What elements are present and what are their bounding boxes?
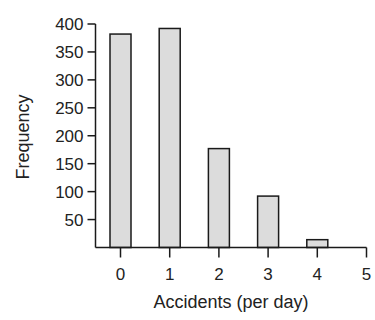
y-tick-label: 250: [55, 99, 83, 118]
x-tick-label: 0: [116, 265, 125, 284]
x-tick-label: 5: [362, 265, 371, 284]
y-tick-label: 350: [55, 43, 83, 62]
x-tick-label: 2: [214, 265, 223, 284]
bar-1: [159, 28, 180, 247]
y-tick-label: 300: [55, 71, 83, 90]
y-tick-label: 150: [55, 155, 83, 174]
y-axis-title: Frequency: [13, 94, 33, 179]
y-axis: 50100150200250300350400: [55, 15, 95, 248]
bar-3: [258, 196, 279, 247]
x-tick-label: 4: [313, 265, 322, 284]
histogram-chart: 50100150200250300350400 012345 Accidents…: [0, 0, 375, 320]
y-tick-label: 200: [55, 127, 83, 146]
x-tick-label: 1: [165, 265, 174, 284]
y-tick-label: 50: [65, 211, 84, 230]
bar-2: [208, 149, 229, 248]
bar-4: [307, 240, 328, 248]
x-axis: 012345: [96, 248, 372, 284]
y-tick-label: 400: [55, 15, 83, 34]
x-tick-label: 3: [263, 265, 272, 284]
x-axis-title: Accidents (per day): [153, 292, 308, 312]
bar-0: [110, 34, 131, 247]
bars-group: [110, 28, 328, 247]
y-tick-label: 100: [55, 183, 83, 202]
